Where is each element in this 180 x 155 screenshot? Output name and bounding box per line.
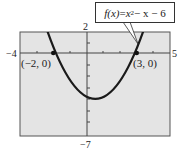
point-label-right: (3, 0): [133, 57, 157, 70]
point-label-left: (−2, 0): [21, 57, 51, 70]
equation-rest: − x − 6: [134, 7, 166, 19]
quadratic-graph: −4 5 2 −7 (−2, 0) (3, 0): [0, 0, 180, 155]
x-max-label: 5: [172, 48, 177, 59]
x-min-label: −4: [6, 48, 17, 59]
y-min-label: −7: [80, 139, 91, 150]
point-neg2-0: [51, 51, 56, 56]
equation-lhs: f(x): [104, 7, 119, 19]
plot-area: [20, 32, 170, 136]
y-max-label: 2: [83, 21, 88, 32]
equation-callout: f(x) = x2 − x − 6: [95, 2, 175, 23]
point-3-0: [134, 51, 139, 56]
